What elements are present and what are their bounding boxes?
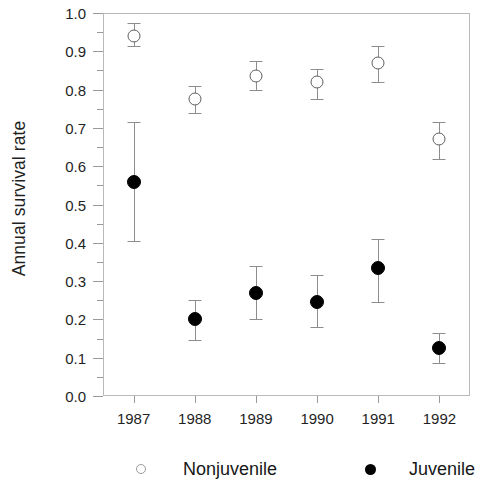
y-axis-minor-tick — [97, 300, 103, 301]
y-axis-tick-label-wrap: 0.4 — [38, 243, 86, 244]
y-axis-tick-label: 0.7 — [38, 119, 86, 136]
y-axis-tick-label: 0.6 — [38, 158, 86, 175]
y-axis-tick-label: 0.5 — [38, 196, 86, 213]
y-axis-tick-label: 0.9 — [38, 43, 86, 60]
y-axis-tick-label-wrap: 0.3 — [38, 281, 86, 282]
data-point-juvenile-1987 — [127, 175, 141, 189]
data-point-juvenile-1990 — [310, 295, 324, 309]
error-bar-cap — [372, 239, 385, 240]
legend-item-nonjuvenile: Nonjuvenile — [136, 459, 277, 480]
y-axis-tick — [93, 319, 103, 320]
y-axis-tick-label-wrap: 0.2 — [38, 319, 86, 320]
legend-label-juvenile: Juvenile — [409, 459, 475, 480]
y-axis-title: Annual survival rate — [0, 0, 40, 396]
error-bar-cap — [249, 61, 262, 62]
x-axis-tick — [195, 396, 196, 403]
data-point-juvenile-1992 — [432, 341, 446, 355]
y-axis-tick — [93, 13, 103, 14]
plot-area — [103, 13, 470, 396]
y-axis-minor-tick — [97, 32, 103, 33]
y-axis-tick-label: 0.8 — [38, 81, 86, 98]
x-axis-tick-label: 1992 — [404, 410, 474, 427]
x-axis-tick-label: 1991 — [343, 410, 413, 427]
chart-legend: Nonjuvenile Juvenile — [103, 452, 482, 486]
y-axis-tick-label-wrap: 0.8 — [38, 90, 86, 91]
y-axis-tick — [93, 205, 103, 206]
open-circle-icon — [136, 464, 146, 474]
x-axis-tick — [256, 396, 257, 403]
y-axis-minor-tick — [97, 147, 103, 148]
x-axis-tick-label: 1988 — [160, 410, 230, 427]
y-axis-tick-label-wrap: 0.5 — [38, 205, 86, 206]
data-point-nonjuvenile-1991 — [372, 56, 385, 69]
error-bar-cap — [188, 86, 201, 87]
y-axis-tick-label: 0.1 — [38, 349, 86, 366]
y-axis-tick-label: 1.0 — [38, 5, 86, 22]
error-bar-cap — [127, 46, 140, 47]
legend-label-nonjuvenile: Nonjuvenile — [183, 459, 277, 480]
y-axis-title-label: Annual survival rate — [10, 120, 31, 276]
error-bar-cap — [433, 363, 446, 364]
x-axis-tick — [378, 396, 379, 403]
data-point-juvenile-1988 — [188, 312, 202, 326]
data-point-juvenile-1989 — [249, 286, 263, 300]
y-axis-minor-tick — [97, 339, 103, 340]
error-bar-cap — [311, 99, 324, 100]
y-axis-minor-tick — [97, 262, 103, 263]
x-axis-tick-label: 1990 — [282, 410, 352, 427]
y-axis-tick — [93, 166, 103, 167]
y-axis-minor-tick — [97, 70, 103, 71]
x-axis-tick — [439, 396, 440, 403]
error-bar-cap — [188, 300, 201, 301]
error-bar-cap — [188, 340, 201, 341]
data-point-nonjuvenile-1988 — [188, 93, 201, 106]
error-bar-cap — [372, 46, 385, 47]
error-bar-cap — [249, 266, 262, 267]
error-bar-cap — [127, 122, 140, 123]
error-bar-cap — [249, 90, 262, 91]
y-axis-tick — [93, 51, 103, 52]
error-bar-cap — [127, 241, 140, 242]
y-axis-tick-label-wrap: 0.6 — [38, 166, 86, 167]
y-axis-tick-label: 0.2 — [38, 311, 86, 328]
x-axis-tick — [134, 396, 135, 403]
y-axis-tick-label-wrap: 0.0 — [38, 396, 86, 397]
x-axis-tick-label: 1989 — [221, 410, 291, 427]
y-axis-tick-label-wrap: 1.0 — [38, 13, 86, 14]
y-axis-tick-label: 0.0 — [38, 388, 86, 405]
error-bar-cap — [127, 23, 140, 24]
y-axis-tick — [93, 243, 103, 244]
y-axis-minor-tick — [97, 185, 103, 186]
error-bar-cap — [433, 333, 446, 334]
y-axis-tick-label-wrap: 0.1 — [38, 358, 86, 359]
y-axis-tick — [93, 396, 103, 397]
x-axis-tick-label: 1987 — [99, 410, 169, 427]
error-bar-cap — [311, 327, 324, 328]
y-axis-minor-tick — [97, 224, 103, 225]
y-axis-minor-tick — [97, 109, 103, 110]
data-point-nonjuvenile-1990 — [311, 75, 324, 88]
error-bar-cap — [311, 69, 324, 70]
chart-figure: Annual survival rate 0.00.10.20.30.40.50… — [0, 0, 482, 489]
data-point-nonjuvenile-1989 — [249, 70, 262, 83]
y-axis-tick-label-wrap: 0.7 — [38, 128, 86, 129]
error-bar-cap — [188, 113, 201, 114]
error-bar-cap — [372, 82, 385, 83]
data-point-nonjuvenile-1987 — [127, 29, 140, 42]
y-axis-tick — [93, 90, 103, 91]
y-axis-tick-label: 0.3 — [38, 273, 86, 290]
y-axis-tick — [93, 128, 103, 129]
error-bar-cap — [311, 275, 324, 276]
y-axis-minor-tick — [97, 377, 103, 378]
error-bar-cap — [433, 159, 446, 160]
y-axis-tick — [93, 358, 103, 359]
y-axis-tick — [93, 281, 103, 282]
y-axis-tick-label-wrap: 0.9 — [38, 51, 86, 52]
y-axis-tick-label: 0.4 — [38, 234, 86, 251]
data-point-juvenile-1991 — [371, 261, 385, 275]
error-bar-cap — [249, 319, 262, 320]
error-bar-cap — [372, 302, 385, 303]
filled-circle-icon — [365, 464, 376, 475]
data-point-nonjuvenile-1992 — [433, 133, 446, 146]
x-axis-tick — [317, 396, 318, 403]
